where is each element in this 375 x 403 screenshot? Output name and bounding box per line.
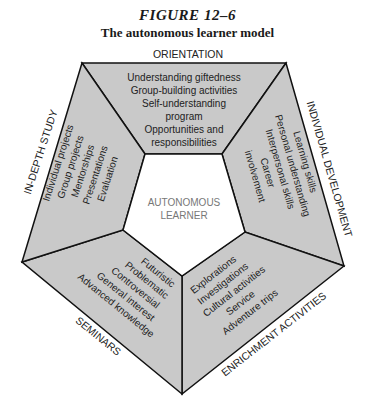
orientation-title: ORIENTATION	[153, 48, 223, 60]
list-item: Group-building activities	[131, 85, 238, 96]
list-item: Understanding giftedness	[127, 72, 240, 83]
autonomous-learner-diagram: AUTONOMOUS LEARNER ORIENTATION Understan…	[0, 0, 375, 403]
list-item: Opportunities and	[145, 124, 224, 135]
list-item: Self-understanding	[142, 98, 226, 109]
center-label-line2: LEARNER	[160, 210, 207, 221]
list-item: program	[165, 111, 202, 122]
center-label-line1: AUTONOMOUS	[148, 197, 221, 208]
list-item: responsibilities	[151, 137, 217, 148]
